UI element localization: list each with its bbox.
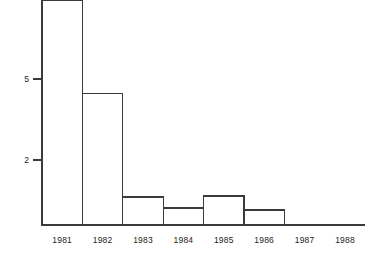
bar-1986 [244, 210, 284, 225]
y-tick-label-5: 5 [24, 74, 29, 84]
plot-area: 25 19811982198319841985198619871988 [0, 0, 386, 262]
x-tick-label-1987: 1987 [295, 235, 315, 245]
bar-chart-figure: 25 19811982198319841985198619871988 [0, 0, 386, 262]
x-tick-labels-group: 19811982198319841985198619871988 [52, 235, 355, 245]
y-tick-label-2: 2 [24, 155, 29, 165]
x-tick-label-1984: 1984 [174, 235, 194, 245]
x-tick-label-1985: 1985 [214, 235, 234, 245]
x-tick-label-1983: 1983 [133, 235, 153, 245]
bar-1985 [204, 196, 244, 225]
x-tick-label-1981: 1981 [52, 235, 72, 245]
bars-group [42, 1, 284, 225]
x-tick-label-1982: 1982 [93, 235, 113, 245]
y-ticks-group [33, 79, 42, 160]
x-tick-label-1988: 1988 [335, 235, 355, 245]
bar-1981 [42, 1, 82, 225]
bar-1982 [82, 94, 122, 225]
chart-canvas: 25 19811982198319841985198619871988 [0, 0, 386, 262]
x-tick-label-1986: 1986 [254, 235, 274, 245]
y-tick-labels-group: 25 [24, 74, 29, 165]
bar-1984 [163, 208, 203, 225]
bar-1983 [123, 197, 163, 225]
